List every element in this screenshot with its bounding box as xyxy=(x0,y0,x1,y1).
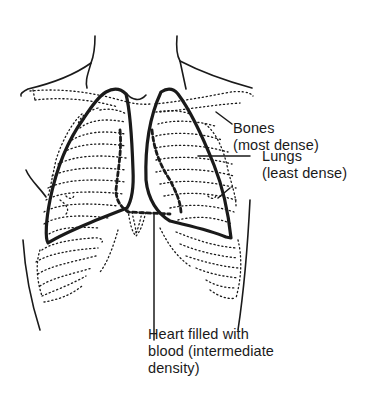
label-heart-line2: blood (intermediate xyxy=(148,343,274,360)
label-bones-title: Bones xyxy=(233,120,319,137)
label-lungs-title: Lungs xyxy=(262,148,347,165)
label-lungs: Lungs (least dense) xyxy=(262,148,347,182)
label-heart-line3: density) xyxy=(148,360,274,377)
label-lungs-note: (least dense) xyxy=(262,165,347,182)
label-heart: Heart filled with blood (intermediate de… xyxy=(148,326,274,377)
lungs-outline xyxy=(46,89,231,243)
label-heart-line1: Heart filled with xyxy=(148,326,274,343)
